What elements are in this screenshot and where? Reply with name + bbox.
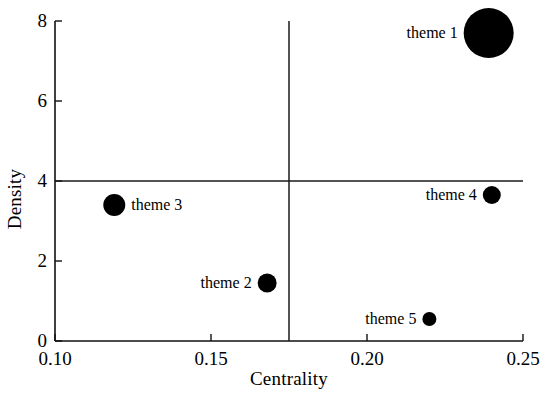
- data-point-label: theme 2: [52, 275, 252, 291]
- data-bubble: [483, 186, 501, 204]
- data-bubble: [258, 274, 277, 293]
- y-tick-label: 4: [17, 171, 47, 190]
- x-tick-label: 0.15: [176, 349, 246, 368]
- data-point-label: theme 4: [277, 187, 477, 203]
- x-tick-label: 0.25: [488, 349, 540, 368]
- data-point-label: theme 5: [216, 311, 416, 327]
- data-bubble: [422, 312, 436, 326]
- x-tick-label: 0.10: [20, 349, 90, 368]
- data-bubble: [103, 194, 125, 216]
- strategic-diagram-chart: Density Centrality 02468 0.100.150.200.2…: [0, 0, 540, 398]
- x-tick-label: 0.20: [332, 349, 402, 368]
- y-tick-label: 6: [17, 91, 47, 110]
- y-tick-label: 2: [17, 251, 47, 270]
- y-tick-label: 8: [17, 11, 47, 30]
- data-bubble: [464, 8, 514, 58]
- data-point-label: theme 1: [258, 25, 458, 41]
- quadrant-reference-lines: [55, 21, 523, 341]
- x-axis-title: Centrality: [55, 368, 523, 390]
